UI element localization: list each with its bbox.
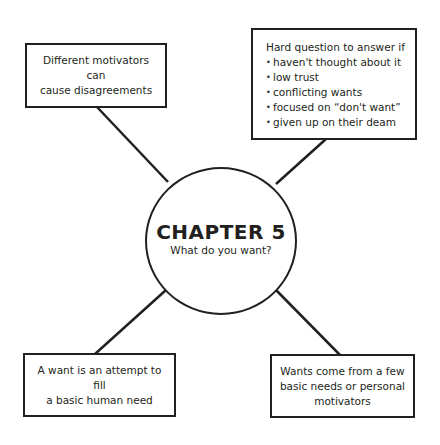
- note-box-hard-question: Hard question to answer if haven't thoug…: [251, 28, 417, 140]
- connector-top-left: [97, 107, 168, 182]
- note-line: Wants come from a few: [280, 364, 405, 379]
- bullet-list: haven't thought about it low trust confl…: [266, 55, 415, 130]
- note-heading: Hard question to answer if: [266, 40, 415, 55]
- chapter-title: CHAPTER 5: [156, 221, 286, 243]
- note-box-different-motivators: Different motivators can cause disagreem…: [25, 43, 167, 108]
- bullet-item: low trust: [266, 70, 415, 85]
- note-box-want-definition: A want is an attempt to fill a basic hum…: [23, 353, 176, 417]
- connector-top-right: [276, 139, 326, 184]
- note-line: basic needs or personal: [280, 379, 405, 394]
- note-line: cause disagreements: [33, 83, 159, 98]
- bullet-item: given up on their deam: [266, 115, 415, 130]
- note-box-wants-origin: Wants come from a few basic needs or per…: [270, 354, 415, 418]
- note-line: A want is an attempt to fill: [31, 363, 168, 393]
- bullet-item: haven't thought about it: [266, 55, 415, 70]
- note-line: a basic human need: [31, 393, 168, 408]
- connector-bottom-left: [95, 290, 166, 354]
- bullet-item: conflicting wants: [266, 85, 415, 100]
- chapter-subtitle: What do you want?: [170, 243, 271, 257]
- note-text: Different motivators can cause disagreem…: [33, 53, 159, 98]
- bullet-item: focused on “don't want”: [266, 100, 415, 115]
- note-text: Wants come from a few basic needs or per…: [280, 364, 405, 409]
- note-line: Different motivators can: [33, 53, 159, 83]
- connector-bottom-right: [276, 290, 340, 355]
- chapter-circle: CHAPTER 5 What do you want?: [145, 167, 297, 315]
- note-text: A want is an attempt to fill a basic hum…: [31, 363, 168, 408]
- note-line: motivators: [280, 394, 405, 409]
